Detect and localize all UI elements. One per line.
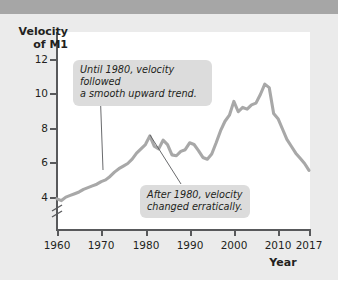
- y-tick-8: [50, 128, 57, 130]
- x-tick-1960: [57, 229, 59, 236]
- x-tick-label-2000: 2000: [214, 239, 254, 251]
- y-tick-12: [50, 59, 57, 61]
- right-margin: [338, 0, 348, 290]
- y-axis-break-icon: [49, 202, 65, 226]
- callout-1-line-1: Until 1980, velocity followed: [80, 64, 205, 88]
- y-axis-line: [56, 32, 58, 230]
- x-tick-label-2017: 2017: [289, 239, 329, 251]
- x-tick-2000: [234, 229, 236, 236]
- x-tick-2017: [309, 229, 311, 236]
- y-tick-label-4: 4: [26, 191, 48, 203]
- y-tick-label-10: 10: [26, 87, 48, 99]
- x-tick-label-1970: 1970: [81, 239, 121, 251]
- y-tick-4: [50, 197, 57, 199]
- x-tick-1970: [101, 229, 103, 236]
- y-tick-label-12: 12: [26, 53, 48, 65]
- x-axis-title: Year: [258, 256, 308, 269]
- callout-2-line-1: After 1980, velocity: [147, 189, 243, 201]
- x-tick-1980: [146, 229, 148, 236]
- x-axis-line: [56, 229, 310, 231]
- callout-until-1980: Until 1980, velocity followed a smooth u…: [73, 60, 212, 106]
- x-tick-2010: [278, 229, 280, 236]
- y-tick-10: [50, 93, 57, 95]
- x-tick-1990: [190, 229, 192, 236]
- bottom-margin: [0, 280, 348, 290]
- y-tick-label-8: 8: [26, 122, 48, 134]
- x-tick-label-1980: 1980: [126, 239, 166, 251]
- top-banner-bar: [0, 0, 338, 14]
- x-tick-label-1960: 1960: [37, 239, 77, 251]
- callout-1-line-2: a smooth upward trend.: [80, 88, 205, 100]
- callout-after-1980: After 1980, velocity changed erratically…: [140, 185, 250, 218]
- y-axis-title-line1: Velocity: [6, 26, 68, 39]
- x-tick-label-1990: 1990: [170, 239, 210, 251]
- callout-2-line-2: changed erratically.: [147, 201, 243, 213]
- y-tick-6: [50, 162, 57, 164]
- y-tick-label-6: 6: [26, 156, 48, 168]
- figure-page: 12 10 8 6 4 1960 1970 1980 1990 2000 201…: [0, 0, 348, 290]
- y-axis-title: Velocity of M1: [6, 26, 68, 51]
- y-axis-title-line2: of M1: [6, 39, 68, 52]
